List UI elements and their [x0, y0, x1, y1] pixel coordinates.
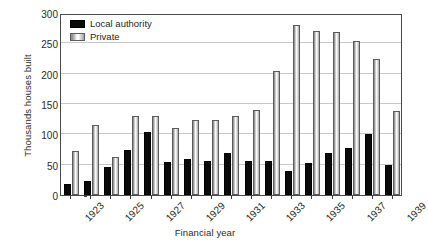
bar-private [132, 116, 139, 195]
bar-group [222, 15, 242, 195]
bar-private [152, 116, 159, 195]
bar-local-authority [245, 161, 252, 195]
bar-local-authority [144, 132, 151, 195]
bar-local-authority [224, 153, 231, 195]
x-axis-tick-label: 1937 [364, 200, 388, 224]
bar-local-authority [305, 163, 312, 195]
x-axis-tick-mark [372, 196, 373, 199]
bar-private [393, 111, 400, 195]
x-axis-title: Financial year [0, 227, 410, 238]
x-axis-tick-mark [151, 196, 152, 199]
x-axis-tick-mark [90, 196, 91, 199]
x-axis-tick-mark [211, 196, 212, 199]
bar-local-authority [124, 150, 131, 195]
bar-private [232, 116, 239, 195]
bar-group [383, 15, 402, 195]
bar-local-authority [104, 167, 111, 195]
bar-local-authority [184, 159, 191, 195]
x-axis-tick-mark [392, 196, 393, 199]
legend-swatch-private [70, 33, 85, 41]
x-axis-tick-label: 1925 [123, 200, 147, 224]
bar-private [253, 110, 260, 195]
bar-local-authority [64, 184, 71, 195]
x-axis-tick-label: 1939 [404, 200, 428, 224]
bar-private [373, 59, 380, 196]
bar-private [212, 120, 219, 195]
bar-group [323, 15, 343, 195]
bar-private [333, 32, 340, 195]
bar-group [202, 15, 222, 195]
x-axis-tick-mark [251, 196, 252, 199]
y-axis-tick-labels: 050100150200250300 [28, 0, 58, 246]
x-axis-tick-label: 1927 [163, 200, 187, 224]
x-axis-tick-mark [291, 196, 292, 199]
x-axis-tick-label: 1935 [324, 200, 348, 224]
bar-private [313, 31, 320, 195]
bar-local-authority [365, 134, 372, 195]
x-axis-tick-labels: 192319251927192919311933193519371939 [60, 196, 402, 246]
legend-label-private: Private [90, 31, 120, 42]
legend-label-local-authority: Local authority [90, 18, 152, 29]
y-axis-tick-label: 200 [41, 69, 58, 80]
y-axis-tick-label: 300 [41, 9, 58, 20]
bar-private [293, 25, 300, 195]
x-axis-tick-mark [191, 196, 192, 199]
x-axis-tick-mark [332, 196, 333, 199]
x-axis-tick-mark [70, 196, 71, 199]
bar-private [72, 151, 79, 195]
x-axis-tick-mark [271, 196, 272, 199]
bar-local-authority [84, 181, 91, 195]
x-axis-tick-label: 1931 [244, 200, 268, 224]
chart-legend: Local authority Private [70, 18, 152, 44]
x-axis-tick-mark [352, 196, 353, 199]
bar-group [282, 15, 302, 195]
bar-local-authority [164, 162, 171, 195]
bar-private [112, 157, 119, 195]
bar-private [273, 71, 280, 195]
bar-group [343, 15, 363, 195]
x-axis-tick-label: 1933 [284, 200, 308, 224]
bar-private [192, 120, 199, 195]
y-axis-tick-label: 50 [47, 160, 58, 171]
bar-local-authority [204, 161, 211, 195]
y-axis-tick-label: 0 [52, 191, 58, 202]
x-axis-tick-mark [311, 196, 312, 199]
legend-item-local-authority: Local authority [70, 18, 152, 29]
x-axis-tick-mark [130, 196, 131, 199]
bar-private [172, 128, 179, 195]
bar-local-authority [265, 161, 272, 195]
bar-group [363, 15, 383, 195]
bar-group [242, 15, 262, 195]
x-axis-tick-mark [231, 196, 232, 199]
legend-swatch-local-authority [70, 20, 85, 28]
y-axis-tick-label: 150 [41, 100, 58, 111]
bar-group [302, 15, 322, 195]
bar-local-authority [285, 171, 292, 195]
y-axis-tick-label: 250 [41, 39, 58, 50]
bar-group [162, 15, 182, 195]
bar-local-authority [385, 165, 392, 195]
bar-private [92, 125, 99, 195]
bar-private [353, 41, 360, 195]
bar-group [262, 15, 282, 195]
x-axis-tick-label: 1929 [203, 200, 227, 224]
legend-item-private: Private [70, 31, 152, 42]
y-axis-tick-label: 100 [41, 130, 58, 141]
x-axis-tick-mark [110, 196, 111, 199]
bar-group [182, 15, 202, 195]
bar-local-authority [325, 153, 332, 195]
bar-local-authority [345, 148, 352, 195]
x-axis-tick-mark [171, 196, 172, 199]
x-axis-tick-label: 1923 [83, 200, 107, 224]
